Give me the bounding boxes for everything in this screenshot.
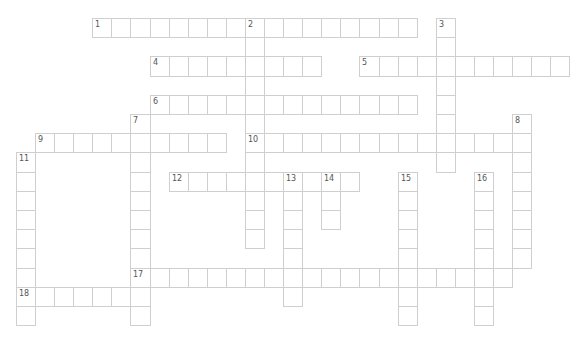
crossword-cell[interactable] [550, 56, 570, 77]
crossword-cell[interactable] [169, 56, 189, 77]
crossword-cell[interactable] [16, 268, 36, 288]
crossword-cell[interactable] [207, 95, 227, 115]
crossword-cell[interactable] [436, 268, 456, 288]
crossword-cell[interactable] [512, 133, 532, 153]
crossword-cell[interactable]: 8 [512, 114, 532, 134]
crossword-cell[interactable] [92, 287, 112, 307]
crossword-cell[interactable]: 5 [359, 56, 380, 77]
crossword-cell[interactable] [398, 56, 418, 77]
crossword-cell[interactable] [283, 229, 303, 249]
crossword-cell[interactable] [321, 133, 341, 153]
crossword-cell[interactable] [512, 229, 532, 249]
crossword-cell[interactable] [379, 95, 399, 115]
crossword-cell[interactable] [398, 248, 418, 269]
crossword-cell[interactable] [73, 133, 93, 153]
crossword-cell[interactable] [436, 152, 456, 173]
crossword-cell[interactable] [474, 229, 494, 249]
crossword-cell[interactable] [302, 172, 322, 192]
crossword-cell[interactable] [264, 172, 284, 192]
crossword-cell[interactable] [531, 56, 551, 77]
crossword-cell[interactable] [512, 56, 532, 77]
crossword-cell[interactable] [245, 152, 265, 173]
crossword-cell[interactable] [54, 133, 74, 153]
crossword-cell[interactable] [245, 210, 265, 230]
crossword-cell[interactable] [321, 191, 341, 211]
crossword-cell[interactable] [398, 95, 418, 115]
crossword-cell[interactable] [474, 287, 494, 307]
crossword-cell[interactable]: 12 [169, 172, 189, 192]
crossword-cell[interactable]: 7 [130, 114, 151, 134]
crossword-cell[interactable] [436, 56, 456, 77]
crossword-cell[interactable] [359, 95, 380, 115]
crossword-cell[interactable] [130, 306, 151, 326]
crossword-cell[interactable] [283, 18, 303, 38]
crossword-cell[interactable] [321, 268, 341, 288]
crossword-cell[interactable] [130, 210, 151, 230]
crossword-cell[interactable] [169, 133, 189, 153]
crossword-cell[interactable] [16, 248, 36, 269]
crossword-cell[interactable] [283, 248, 303, 269]
crossword-cell[interactable] [436, 133, 456, 153]
crossword-cell[interactable] [35, 287, 55, 307]
crossword-cell[interactable] [245, 191, 265, 211]
crossword-cell[interactable] [474, 268, 494, 288]
crossword-cell[interactable]: 2 [245, 18, 265, 38]
crossword-cell[interactable] [226, 56, 246, 77]
crossword-cell[interactable] [493, 56, 513, 77]
crossword-cell[interactable] [302, 133, 322, 153]
crossword-cell[interactable] [245, 268, 265, 288]
crossword-cell[interactable] [302, 56, 322, 77]
crossword-cell[interactable] [417, 133, 437, 153]
crossword-cell[interactable] [455, 133, 475, 153]
crossword-cell[interactable] [321, 18, 341, 38]
crossword-cell[interactable]: 13 [283, 172, 303, 192]
crossword-cell[interactable] [283, 133, 303, 153]
crossword-cell[interactable]: 3 [436, 18, 456, 38]
crossword-cell[interactable] [379, 133, 399, 153]
crossword-cell[interactable] [130, 172, 151, 192]
crossword-cell[interactable] [16, 191, 36, 211]
crossword-cell[interactable] [321, 95, 341, 115]
crossword-cell[interactable] [130, 152, 151, 173]
crossword-cell[interactable] [226, 268, 246, 288]
crossword-cell[interactable] [245, 229, 265, 249]
crossword-cell[interactable] [130, 248, 151, 269]
crossword-cell[interactable] [359, 133, 380, 153]
crossword-cell[interactable] [398, 268, 418, 288]
crossword-cell[interactable] [359, 268, 380, 288]
crossword-cell[interactable] [398, 133, 418, 153]
crossword-cell[interactable] [512, 172, 532, 192]
crossword-cell[interactable] [169, 268, 189, 288]
crossword-cell[interactable] [111, 287, 131, 307]
crossword-cell[interactable] [92, 133, 112, 153]
crossword-cell[interactable] [130, 133, 151, 153]
crossword-cell[interactable] [398, 229, 418, 249]
crossword-cell[interactable] [150, 18, 170, 38]
crossword-cell[interactable] [474, 133, 494, 153]
crossword-cell[interactable] [207, 268, 227, 288]
crossword-cell[interactable] [359, 18, 380, 38]
crossword-cell[interactable] [54, 287, 74, 307]
crossword-cell[interactable] [16, 172, 36, 192]
crossword-cell[interactable] [340, 172, 360, 192]
crossword-cell[interactable] [264, 268, 284, 288]
crossword-cell[interactable] [436, 76, 456, 96]
crossword-cell[interactable]: 18 [16, 287, 36, 307]
crossword-cell[interactable] [379, 56, 399, 77]
crossword-cell[interactable]: 1 [92, 18, 112, 38]
crossword-cell[interactable] [188, 56, 208, 77]
crossword-cell[interactable] [512, 210, 532, 230]
crossword-cell[interactable] [130, 191, 151, 211]
crossword-cell[interactable] [398, 18, 418, 38]
crossword-cell[interactable] [340, 18, 360, 38]
crossword-cell[interactable] [264, 133, 284, 153]
crossword-cell[interactable] [436, 37, 456, 57]
crossword-cell[interactable] [226, 95, 246, 115]
crossword-cell[interactable] [283, 210, 303, 230]
crossword-cell[interactable] [302, 268, 322, 288]
crossword-cell[interactable] [283, 268, 303, 288]
crossword-cell[interactable] [245, 56, 265, 77]
crossword-cell[interactable] [207, 18, 227, 38]
crossword-cell[interactable] [169, 95, 189, 115]
crossword-cell[interactable] [207, 56, 227, 77]
